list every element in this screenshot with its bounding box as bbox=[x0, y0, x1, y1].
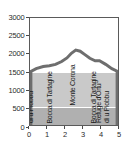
x-axis-tick: 3 bbox=[81, 126, 85, 139]
x-axis-tick: 2 bbox=[63, 126, 67, 139]
x-axis-tick-mark bbox=[28, 126, 29, 129]
y-axis-tick: 2000 bbox=[9, 49, 29, 59]
x-axis-tick: 0 bbox=[27, 126, 31, 139]
elevation-profile-curve bbox=[30, 18, 118, 125]
y-axis-tick: 3000 bbox=[9, 12, 29, 22]
x-axis-tick-mark bbox=[118, 126, 119, 129]
x-axis: 0 1 2 3 4 5 bbox=[29, 126, 119, 148]
elevation-profile-chart: 3000 2500 2000 1500 1000 500 0 Refuge d'… bbox=[0, 0, 128, 148]
y-axis-tick-label: 500 bbox=[13, 104, 25, 113]
x-axis-tick-mark bbox=[46, 126, 47, 129]
y-axis-tick-label: 3000 bbox=[9, 13, 25, 22]
y-axis-tick-label: 2500 bbox=[9, 31, 25, 40]
x-axis-tick-label: 4 bbox=[99, 130, 103, 139]
profile-polyline bbox=[31, 50, 117, 125]
y-axis-tick: 1500 bbox=[9, 67, 29, 77]
x-axis-tick-label: 0 bbox=[27, 130, 31, 139]
y-axis-tick: 1000 bbox=[9, 85, 29, 95]
x-axis-tick: 1 bbox=[45, 126, 49, 139]
x-axis-tick: 5 bbox=[117, 126, 121, 139]
y-axis-tick: 2500 bbox=[9, 30, 29, 40]
x-axis-tick-mark bbox=[82, 126, 83, 129]
y-axis-tick-label: 2000 bbox=[9, 49, 25, 58]
x-axis-tick-mark bbox=[64, 126, 65, 129]
x-axis-tick: 4 bbox=[99, 126, 103, 139]
x-axis-tick-label: 3 bbox=[81, 130, 85, 139]
y-axis-tick-label: 1000 bbox=[9, 86, 25, 95]
y-axis-tick: 500 bbox=[13, 104, 29, 114]
y-axis-tick-label: 0 bbox=[21, 123, 25, 132]
x-axis-tick-label: 1 bbox=[45, 130, 49, 139]
plot-area: Refuge d'Ortu di u Piobbu Bocca di Tarta… bbox=[29, 17, 119, 126]
y-axis-tick-label: 1500 bbox=[9, 68, 25, 77]
y-axis: 3000 2500 2000 1500 1000 500 0 bbox=[0, 17, 29, 127]
x-axis-tick-label: 2 bbox=[63, 130, 67, 139]
x-axis-tick-mark bbox=[100, 126, 101, 129]
x-axis-tick-label: 5 bbox=[117, 130, 121, 139]
